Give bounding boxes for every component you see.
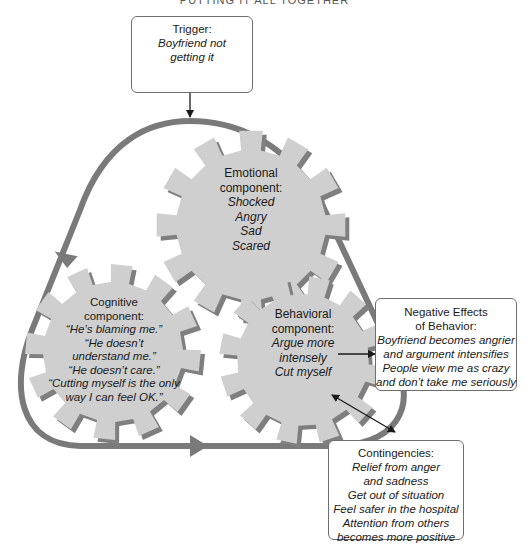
contingency-item: Feel safer in the hospital	[329, 502, 463, 516]
contingency-item: and sadness	[329, 474, 463, 488]
contingency-item: Relief from anger	[329, 460, 463, 474]
contingency-item: Attention from others	[329, 516, 463, 530]
cognitive-component-text: Cognitive component: “He’s blaming me.” …	[40, 296, 188, 404]
cognitive-item: way I can feel OK.”	[40, 391, 188, 405]
negative-effect-item: and don’t take me seriously	[376, 375, 516, 389]
behavioral-item: intensely	[248, 351, 358, 366]
cognitive-item: “He’s blaming me.”	[40, 323, 188, 337]
cognitive-item: “Cutting myself is the only	[40, 377, 188, 391]
trigger-title: Trigger:	[172, 23, 211, 35]
negative-effects-title: Negative Effects	[376, 305, 516, 319]
behavioral-title: Behavioral	[248, 307, 358, 322]
cognitive-title: component:	[40, 310, 188, 324]
negative-effect-item: People view me as crazy	[376, 361, 516, 375]
trigger-line: getting it	[132, 50, 252, 64]
negative-effect-item: Boyfriend becomes angrier	[376, 333, 516, 347]
negative-effects-box: Negative Effects of Behavior: Boyfriend …	[375, 298, 517, 391]
behavioral-item: Cut myself	[248, 365, 358, 380]
cognitive-item: understand me.”	[40, 350, 188, 364]
loop-arrow-bottom-icon	[190, 435, 208, 457]
emotional-title: Emotional	[195, 166, 307, 181]
emotional-component-text: Emotional component: Shocked Angry Sad S…	[195, 166, 307, 253]
trigger-box: Trigger: Boyfriend not getting it	[131, 16, 253, 93]
emotional-title: component:	[195, 181, 307, 196]
emotional-item: Angry	[195, 210, 307, 225]
cognitive-item: “He doesn’t care.”	[40, 364, 188, 378]
negative-effect-item: and argument intensifies	[376, 347, 516, 361]
contingency-item: becomes more positive	[329, 530, 463, 544]
trigger-line: Boyfriend not	[132, 36, 252, 50]
contingencies-title: Contingencies:	[329, 446, 463, 460]
behavioral-title: component:	[248, 322, 358, 337]
cognitive-item: “He doesn’t	[40, 337, 188, 351]
emotional-item: Sad	[195, 224, 307, 239]
emotional-item: Scared	[195, 239, 307, 254]
emotional-item: Shocked	[195, 195, 307, 210]
contingency-item: Get out of situation	[329, 488, 463, 502]
behavioral-item: Argue more	[248, 336, 358, 351]
contingencies-box: Contingencies: Relief from anger and sad…	[328, 440, 464, 540]
behavioral-component-text: Behavioral component: Argue more intense…	[248, 307, 358, 380]
cognitive-title: Cognitive	[40, 296, 188, 310]
negative-effects-title: of Behavior:	[376, 319, 516, 333]
